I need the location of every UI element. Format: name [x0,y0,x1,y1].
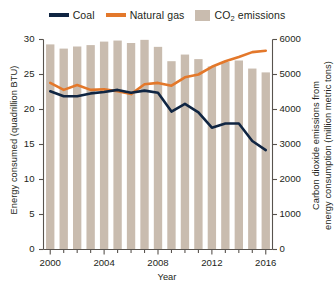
x-axis-title: Year [0,272,334,282]
y-axis-right-title-line1: Carbon dioxide emissions from [311,46,323,246]
y-axis-right-tick-label: 3000 [280,138,314,149]
bar [140,40,148,250]
bar [235,61,243,250]
bar [73,47,81,250]
y-axis-right-tick-label: 2000 [280,173,314,184]
y-axis-right-title-line2: energy consumption (million metric tons) [322,46,334,246]
bar [262,72,270,249]
bar [113,41,121,250]
bar [127,43,135,250]
y-axis-right-tick-label: 0 [280,243,314,254]
x-axis-tick-label: 2016 [246,257,286,268]
bar-series-co2-emissions [46,40,270,250]
bar [181,55,189,250]
bar [154,47,162,250]
bar [194,59,202,249]
x-axis-tick-label: 2012 [192,257,232,268]
chart-figure: Coal Natural gas CO2 emissions 051015202… [0,0,334,291]
bar [167,61,175,249]
bar [60,49,68,250]
bar [46,44,54,249]
bar [248,69,256,250]
y-axis-left-tick-label: 0 [9,243,35,254]
bar [221,62,229,250]
y-axis-right-title: Carbon dioxide emissions from energy con… [311,46,334,246]
y-axis-right-tick-label: 1000 [280,208,314,219]
bar [86,45,94,249]
y-axis-right-tick-label: 5000 [280,68,314,79]
x-axis-tick-label: 2008 [138,257,178,268]
y-axis-right-tick-label: 4000 [280,103,314,114]
bar [208,66,216,249]
x-axis-tick-label: 2004 [84,257,124,268]
y-axis-right-tick-label: 6000 [280,33,314,44]
bar [100,42,108,250]
y-axis-left-title: Energy consumed (quadrillion BTU) [9,40,19,240]
x-axis-tick-label: 2000 [30,257,70,268]
